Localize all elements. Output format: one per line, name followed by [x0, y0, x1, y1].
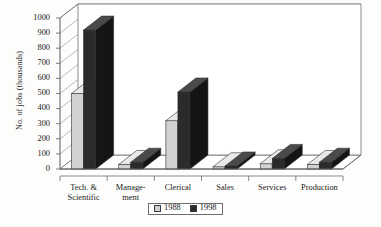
chart-legend: 1988 1998 — [148, 203, 223, 215]
legend-swatch-1998-icon — [190, 205, 197, 212]
y-axis-tick-label: 400 — [16, 104, 50, 112]
legend-label-1988: 1988 — [164, 204, 181, 212]
y-axis-tick-label: 600 — [16, 74, 50, 82]
y-axis-tick-label: 700 — [16, 59, 50, 67]
legend-swatch-1988-icon — [154, 205, 161, 212]
y-axis-tick-label: 100 — [16, 150, 50, 158]
x-axis-category-label: Production — [293, 183, 346, 193]
y-axis-tick-label: 300 — [16, 120, 50, 128]
y-axis-tick-label: 0 — [16, 165, 50, 173]
legend-entry-1988: 1988 — [154, 204, 181, 212]
y-axis-tick-label: 800 — [16, 44, 50, 52]
x-axis-category-label: Sales — [199, 183, 252, 193]
legend-entry-1998: 1998 — [190, 204, 217, 212]
x-axis-ticks — [60, 176, 343, 181]
bar-chart: No. of jobs (thousands) 0100200300400500… — [0, 0, 381, 227]
x-axis-category-label: Services — [246, 183, 299, 193]
x-axis-category-label: Tech. & Scientific — [57, 183, 110, 202]
y-axis-ticks — [56, 18, 60, 169]
x-axis-category-label: Clerical — [151, 183, 204, 193]
y-axis-tick-label: 1000 — [16, 14, 50, 22]
y-axis-tick-label: 200 — [16, 135, 50, 143]
y-axis-tick-label: 900 — [16, 29, 50, 37]
x-axis-category-label: Manage- ment — [104, 183, 157, 202]
legend-label-1998: 1998 — [200, 204, 217, 212]
y-axis-tick-label: 500 — [16, 89, 50, 97]
